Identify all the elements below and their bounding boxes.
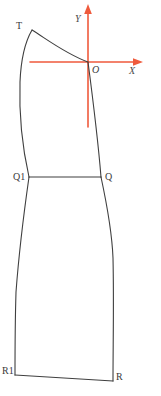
point-label-q1: Q1 [13,172,25,182]
pattern-outline-group [15,30,113,381]
origin-label: O [92,65,99,75]
point-label-t: T [16,21,22,31]
y-axis-arrowhead [84,4,92,14]
pattern-drawing-canvas [0,0,161,396]
left-side-seam-path [20,30,32,177]
point-label-q: Q [105,172,112,182]
point-label-r: R [116,372,123,382]
shoulder-curve-path [32,30,88,62]
pattern-figure: T Y O X Q1 Q R1 R [0,0,161,396]
x-axis-label: X [129,66,135,76]
right-skirt-seam-path [101,177,113,381]
coordinate-axes-group [30,4,143,127]
hem-line-path [15,375,113,381]
point-label-r1: R1 [2,366,14,376]
left-skirt-seam-path [15,177,29,375]
right-side-seam-path [88,62,101,177]
y-axis-label: Y [75,14,81,24]
